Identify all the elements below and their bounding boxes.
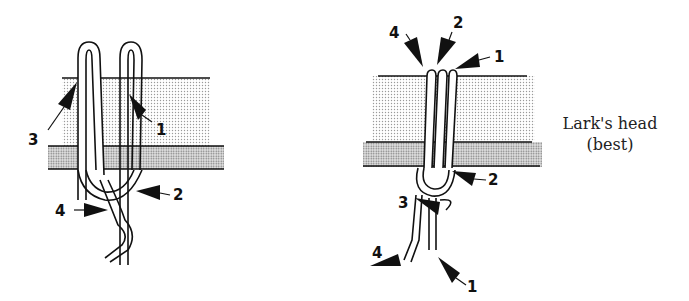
label-4-top: 4 (389, 24, 399, 42)
left-arrow-2: 2 (136, 185, 183, 204)
caption-subtitle: (best) (540, 134, 680, 155)
label-3: 3 (28, 131, 38, 149)
label-1-top: 1 (494, 48, 504, 66)
label-4-bottom: 4 (372, 244, 382, 262)
caption-title: Lark's head (540, 113, 680, 134)
right-arrow-1-bottom: 1 (438, 257, 477, 296)
left-knot-figure: 3 1 2 4 (28, 42, 224, 265)
label-1: 1 (156, 121, 166, 139)
label-2-side: 2 (488, 171, 498, 189)
knot-caption: Lark's head (best) (540, 113, 680, 155)
right-arrow-1-top: 1 (455, 48, 504, 69)
right-arrow-4-bottom: 4 (370, 244, 401, 266)
label-4: 4 (55, 202, 65, 220)
right-arrow-2-top: 2 (437, 14, 463, 65)
right-knot-figure: 4 2 1 2 3 4 1 (363, 14, 542, 296)
left-arrow-4: 4 (55, 202, 108, 220)
right-arrow-4-top: 4 (389, 24, 423, 67)
label-1-bottom: 1 (467, 278, 477, 296)
right-arrow-3: 3 (398, 194, 440, 215)
label-3: 3 (398, 194, 408, 212)
right-arrow-2-side: 2 (452, 171, 498, 189)
label-2-top: 2 (453, 14, 463, 32)
label-2: 2 (173, 186, 183, 204)
